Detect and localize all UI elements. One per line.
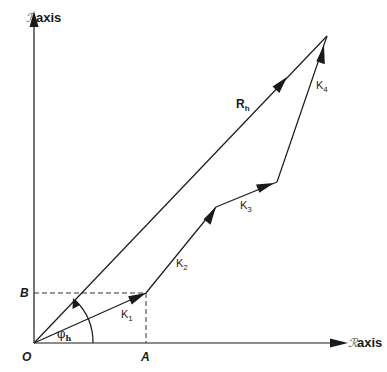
k1-label: K1: [121, 308, 133, 323]
x-axis: ℛ axis: [34, 335, 382, 350]
k2-arrow-icon: [204, 207, 217, 225]
vector-k1: K1: [34, 293, 146, 343]
angle-phi: φh: [57, 298, 93, 343]
vector-k3: K3: [216, 182, 277, 214]
vector-k4: K4: [277, 36, 328, 182]
k3-arrow-icon: [256, 183, 274, 193]
k4-arrow-icon: [316, 45, 325, 64]
y-axis-label: axis: [36, 10, 61, 25]
resultant-vector: Rh: [34, 36, 327, 343]
x-axis-label: axis: [357, 335, 382, 350]
k4-label: K4: [316, 79, 328, 94]
k2-label: K2: [176, 257, 188, 272]
resultant-label: Rh: [236, 97, 250, 113]
angle-label: φh: [57, 327, 71, 343]
phasor-diagram: ℐ axis ℛ axis O A B Rh K1 K2: [0, 0, 387, 372]
k3-label: K3: [240, 199, 252, 214]
origin-label: O: [22, 350, 32, 364]
x-axis-arrow-icon: [330, 339, 348, 348]
k1-arrow-icon: [128, 293, 146, 305]
point-b-label: B: [20, 286, 29, 300]
point-a-label: A: [140, 350, 150, 364]
vector-k2: K2: [146, 207, 216, 293]
